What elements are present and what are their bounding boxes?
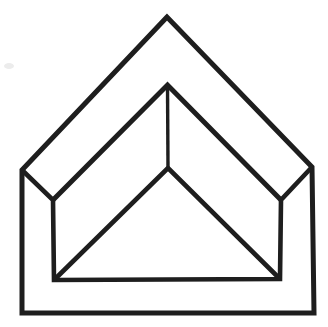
- line-drawing-canvas: [0, 0, 328, 327]
- lower-chevron: [54, 168, 280, 280]
- house-chevron-figure: [0, 0, 328, 327]
- paper-speck: [4, 63, 14, 69]
- ridge-line: [168, 85, 169, 168]
